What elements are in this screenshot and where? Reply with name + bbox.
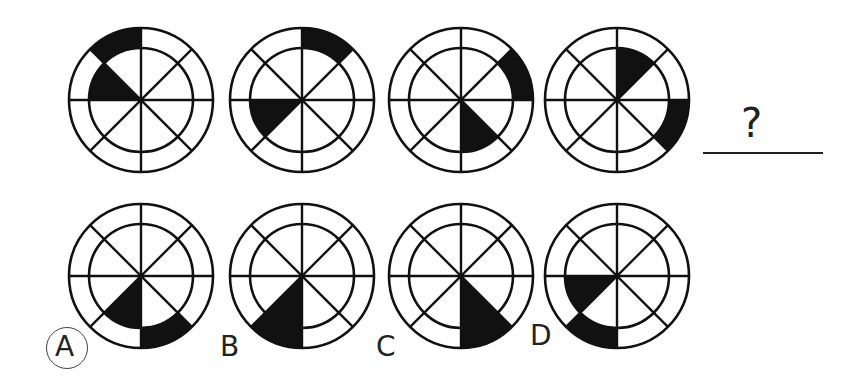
inner-shaded-sector bbox=[250, 100, 302, 137]
option-b-label[interactable]: B bbox=[220, 333, 239, 361]
inner-shaded-sector bbox=[89, 63, 141, 100]
inner-shaded-sector bbox=[565, 276, 617, 313]
sequence-wheel-4 bbox=[545, 28, 689, 172]
option-a-label[interactable]: A bbox=[55, 333, 74, 361]
inner-shaded-sector bbox=[104, 276, 141, 328]
answer-blank-line bbox=[703, 152, 823, 154]
option-wheel-c[interactable] bbox=[389, 204, 533, 348]
option-wheel-d[interactable] bbox=[545, 204, 689, 348]
sequence-wheel-2 bbox=[230, 28, 374, 172]
option-wheel-b[interactable] bbox=[230, 204, 374, 348]
question-mark: ? bbox=[741, 103, 762, 143]
option-wheel-a[interactable] bbox=[69, 204, 213, 348]
option-d-label[interactable]: D bbox=[530, 322, 552, 350]
sequence-wheel-3 bbox=[389, 28, 533, 172]
inner-shaded-sector bbox=[461, 100, 498, 152]
puzzle-canvas bbox=[0, 0, 853, 379]
sequence-wheel-1 bbox=[69, 28, 213, 172]
inner-shaded-sector bbox=[617, 48, 654, 100]
option-c-label[interactable]: C bbox=[376, 333, 396, 361]
